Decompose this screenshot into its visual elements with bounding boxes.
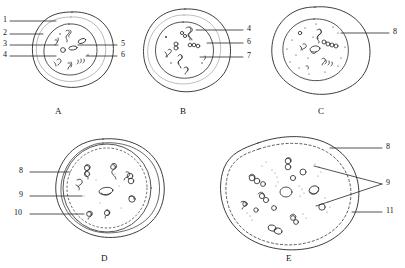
label-b-6: 6 [247,38,251,46]
panel-e-drawing [221,137,382,250]
figure-canvas [0,0,405,268]
label-e-8: 8 [386,143,390,151]
caption-a: A [55,106,62,116]
leader-e-9-lower [316,184,382,206]
label-a-1: 1 [3,16,7,24]
label-c-8: 8 [393,28,397,36]
caption-b: B [180,106,186,116]
label-a-4: 4 [3,51,7,59]
label-a-2: 2 [3,29,7,37]
label-a-5: 5 [121,40,125,48]
caption-d: D [101,253,108,263]
cell-division-figure: 1 2 3 4 5 6 4 6 7 8 8 9 10 8 9 11 A B C … [0,0,405,268]
panel-d-drawing [30,139,164,238]
panel-b-drawing [144,9,244,92]
label-e-9: 9 [386,179,390,187]
label-d-10: 10 [14,209,22,217]
label-d-8: 8 [19,167,23,175]
label-d-9: 9 [19,191,23,199]
label-a-6: 6 [121,51,125,59]
panel-c-drawing [272,7,389,95]
panel-a-drawing [10,12,117,88]
caption-c: C [318,106,324,116]
leader-e-9-upper [314,166,382,184]
label-b-7: 7 [247,52,251,60]
caption-e: E [286,253,292,263]
label-a-3: 3 [3,40,7,48]
label-b-4: 4 [247,25,251,33]
label-e-11: 11 [386,207,394,215]
